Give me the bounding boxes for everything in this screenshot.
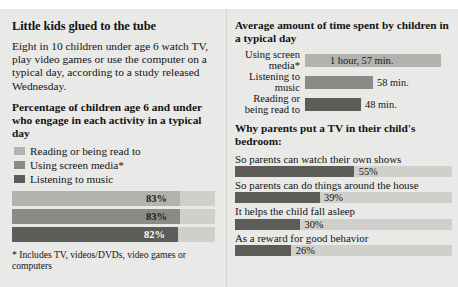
legend-swatch-music-icon [14,175,25,183]
legend-swatch-screen-media-icon [14,161,25,169]
chart-legend: Reading or being read to Using screen me… [14,145,216,185]
infographic-panel: Little kids glued to the tube Eight in 1… [0,9,458,287]
time-chart-heading: Average amount of time spent by children… [235,19,452,45]
list-item: As a reward for good behavior 26% [235,232,452,256]
reason-fill-own-shows [235,166,354,177]
list-item: So parents can watch their own shows 55% [235,153,452,177]
table-row: Reading or being read to 48 min. [235,94,452,115]
bar-value-screen-media: 83% [146,209,167,224]
reason-value-reward: 26% [296,245,315,256]
reasons-bar-chart: So parents can watch their own shows 55%… [235,153,452,256]
reason-track-fall-asleep: 30% [235,219,452,230]
time-value-reading: 48 min. [365,98,397,111]
list-item: So parents can do things around the hous… [235,179,452,203]
time-value-screen-media: 1 hour, 57 min. [330,54,393,67]
reason-label-own-shows: So parents can watch their own shows [235,153,452,165]
bar-value-music: 82% [144,227,165,242]
time-label-screen-media: Using screen media* [235,50,305,71]
percentage-bar-chart: 83% 83% 82% [12,191,216,242]
reason-label-fall-asleep: It helps the child fall asleep [235,205,452,217]
reason-fill-fall-asleep [235,219,300,230]
percentage-chart-subhead: Percentage of children age 6 and under w… [12,101,216,141]
reason-value-fall-asleep: 30% [304,219,323,230]
legend-label-screen-media: Using screen media* [30,159,124,171]
time-bar-track-reading: 48 min. [305,98,452,111]
page-title: Little kids glued to the tube [12,19,216,33]
reason-fill-things-around-house [235,192,320,203]
time-bar-chart: Using screen media* 1 hour, 57 min. List… [235,50,452,115]
left-column: Little kids glued to the tube Eight in 1… [0,9,226,287]
list-item: It helps the child fall asleep 30% [235,205,452,229]
legend-item-reading: Reading or being read to [14,145,216,157]
right-column: Average amount of time spent by children… [226,9,458,287]
legend-swatch-reading-icon [14,147,25,155]
reason-value-own-shows: 55% [359,166,378,177]
legend-label-reading: Reading or being read to [30,145,141,157]
table-row: Using screen media* 1 hour, 57 min. [235,50,452,71]
reason-track-reward: 26% [235,245,452,256]
reason-track-own-shows: 55% [235,166,452,177]
reason-label-reward: As a reward for good behavior [235,232,452,244]
time-label-music: Listening to music [235,72,305,93]
bar-value-reading: 83% [146,191,167,206]
footnote-text: * Includes TV, videos/DVDs, video games … [12,249,216,271]
legend-label-music: Listening to music [30,173,113,185]
time-bar-track-screen-media: 1 hour, 57 min. [305,54,452,67]
legend-item-music: Listening to music [14,173,216,185]
reason-fill-reward [235,245,291,256]
reason-label-things-around-house: So parents can do things around the hous… [235,179,452,191]
time-bar-fill-reading [305,98,361,111]
time-bar-fill-music [305,76,373,89]
reason-track-things-around-house: 39% [235,192,452,203]
reason-value-things-around-house: 39% [324,192,343,203]
table-row: 82% [12,227,215,242]
table-row: Listening to music 58 min. [235,72,452,93]
reasons-chart-heading: Why parents put a TV in their child's be… [235,122,452,148]
intro-paragraph: Eight in 10 children under age 6 watch T… [12,40,216,93]
table-row: 83% [12,191,215,206]
time-bar-track-music: 58 min. [305,76,452,89]
time-value-music: 58 min. [377,76,409,89]
time-label-reading: Reading or being read to [235,94,305,115]
table-row: 83% [12,209,215,224]
legend-item-screen-media: Using screen media* [14,159,216,171]
